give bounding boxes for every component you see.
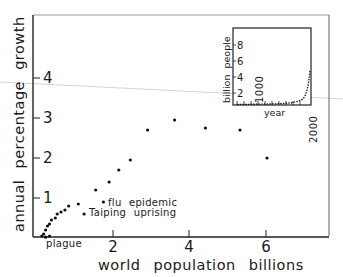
chart-canvas: 1 2 3 4 2 4 6 annual percentage growth w… — [0, 0, 343, 277]
y-tick-4: 4 — [43, 69, 53, 87]
data-point — [83, 212, 86, 215]
data-point — [59, 210, 62, 213]
data-point — [129, 158, 132, 161]
annotation-taiping-uprising: Taiping uprising — [88, 207, 176, 218]
data-point — [48, 222, 51, 225]
inset-y-tick-4: 4 — [237, 72, 243, 83]
y-axis-label: annual percentage growth — [11, 16, 27, 232]
data-point — [94, 188, 97, 191]
inset-chart: 8 6 4 2 billion people year 1000 2000 — [221, 28, 319, 143]
inset-frame — [233, 28, 311, 105]
y-tick-1: 1 — [43, 189, 53, 207]
y-ticks: 1 2 3 4 — [33, 69, 53, 207]
inset-x-tick-1000: 1000 — [254, 76, 265, 103]
data-point — [265, 156, 268, 159]
data-point — [54, 216, 57, 219]
data-point — [108, 180, 111, 183]
data-point — [67, 204, 70, 207]
x-tick-6: 6 — [261, 238, 271, 256]
inset-y-tick-8: 8 — [237, 40, 243, 51]
data-point — [102, 200, 105, 203]
data-point — [50, 218, 53, 221]
data-point — [117, 168, 120, 171]
x-tick-2: 2 — [108, 238, 118, 256]
inset-x-tick-2000: 2000 — [308, 116, 319, 143]
y-tick-3: 3 — [43, 109, 53, 127]
x-tick-4: 4 — [184, 238, 194, 256]
inset-y-label: billion people — [221, 36, 232, 103]
scatter-points — [40, 118, 268, 238]
data-point — [173, 118, 176, 121]
inset-y-tick-2: 2 — [237, 88, 243, 99]
x-axis-label: world population billions — [98, 257, 304, 273]
data-point — [204, 126, 207, 129]
data-point — [63, 208, 66, 211]
y-tick-2: 2 — [43, 149, 53, 167]
annotation-plague: plague — [46, 238, 82, 249]
data-point — [44, 228, 47, 231]
inset-x-label: year — [264, 107, 285, 118]
data-point — [238, 128, 241, 131]
data-point — [56, 212, 59, 215]
x-ticks: 2 4 6 — [108, 230, 271, 256]
inset-y-tick-6: 6 — [237, 56, 243, 67]
data-point — [42, 232, 45, 235]
data-point — [77, 202, 80, 205]
data-point — [146, 128, 149, 131]
